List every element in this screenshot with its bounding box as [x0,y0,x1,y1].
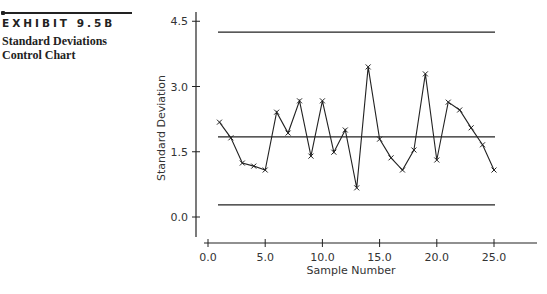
x-tick-label: 20.0 [425,251,450,264]
y-tick-label: 4.5 [171,15,189,28]
x-marker-icon [389,155,394,160]
x-marker-icon [228,135,233,140]
control-chart: 0.01.53.04.50.05.010.015.020.025.0Sample… [0,0,547,294]
x-tick-label: 10.0 [310,251,335,264]
x-axis-label: Sample Number [307,264,396,277]
y-tick-label: 1.5 [171,146,189,159]
x-tick-label: 25.0 [482,251,507,264]
x-marker-icon [469,125,474,130]
x-tick-label: 5.0 [256,251,274,264]
x-marker-icon [400,168,405,173]
x-marker-icon [217,120,222,125]
y-axis-label: Standard Deviation [155,75,168,181]
x-marker-icon [286,131,291,136]
data-line [219,67,494,188]
x-marker-icon [480,142,485,147]
y-tick-label: 3.0 [171,81,189,94]
x-tick-label: 0.0 [199,251,217,264]
x-marker-icon [492,168,497,173]
x-tick-label: 15.0 [367,251,392,264]
y-tick-label: 0.0 [171,211,189,224]
x-marker-icon [457,107,462,112]
